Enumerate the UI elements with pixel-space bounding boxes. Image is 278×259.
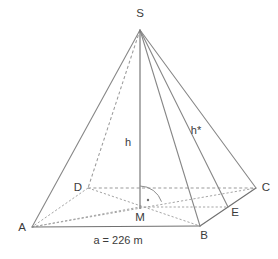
slant-height-label-h-star: h* xyxy=(191,124,202,136)
edge-sc xyxy=(140,30,256,188)
base-edge-measurement: a = 226 m xyxy=(93,234,142,246)
vertex-label-a: A xyxy=(18,221,26,233)
height-label-h: h xyxy=(125,136,131,148)
pyramid-diagram-canvas: S A B C D M E h h* a = 226 m xyxy=(0,0,278,259)
edge-sd-hidden xyxy=(88,30,140,188)
pyramid-figure: S A B C D M E h h* a = 226 m xyxy=(0,0,278,259)
vertex-label-b: B xyxy=(200,229,208,241)
vertex-label-m: M xyxy=(135,211,145,223)
right-angle-dot-icon xyxy=(147,199,149,201)
segment-am-hidden xyxy=(32,207,140,227)
edge-ab xyxy=(32,226,200,227)
vertex-label-s: S xyxy=(136,7,144,19)
segment-se-slant-height xyxy=(140,30,228,207)
vertex-label-c: C xyxy=(262,181,270,193)
vertex-label-d: D xyxy=(74,181,82,193)
edge-da-hidden xyxy=(32,188,88,227)
vertex-label-e: E xyxy=(231,206,239,218)
edge-sa xyxy=(32,30,140,227)
